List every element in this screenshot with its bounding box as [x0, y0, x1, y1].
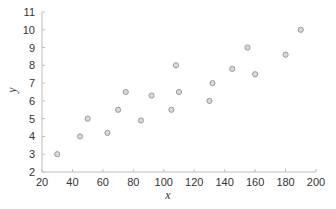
x-tick-label: 60 — [97, 176, 109, 188]
data-points — [55, 27, 304, 157]
axes: 20406080100120140160180200 234567891011 — [23, 6, 325, 188]
data-point — [173, 63, 178, 68]
data-point — [105, 130, 110, 135]
y-tick-label: 10 — [23, 24, 35, 36]
data-point — [123, 89, 128, 94]
data-point — [149, 93, 154, 98]
y-tick-label: 2 — [29, 166, 35, 178]
x-tick-label: 180 — [276, 176, 294, 188]
data-point — [230, 66, 235, 71]
data-point — [138, 118, 143, 123]
data-point — [176, 89, 181, 94]
y-tick-label: 9 — [29, 42, 35, 54]
y-tick-label: 5 — [29, 113, 35, 125]
data-point — [298, 27, 303, 32]
y-tick-label: 8 — [29, 59, 35, 71]
x-axis-title: x — [164, 188, 171, 202]
x-tick-label: 80 — [127, 176, 139, 188]
y-tick-label: 7 — [29, 77, 35, 89]
y-axis-title: y — [5, 87, 19, 94]
x-tick-label: 40 — [66, 176, 78, 188]
data-point — [116, 107, 121, 112]
x-tick-label: 120 — [185, 176, 203, 188]
x-tick-label: 100 — [155, 176, 173, 188]
y-tick-label: 11 — [24, 6, 35, 18]
x-tick-label: 200 — [307, 176, 325, 188]
data-point — [210, 81, 215, 86]
scatter-chart: 20406080100120140160180200 234567891011 … — [0, 0, 336, 209]
y-tick-label: 3 — [29, 148, 35, 160]
x-tick-label: 160 — [246, 176, 264, 188]
x-tick-label: 140 — [215, 176, 233, 188]
x-tick-label: 20 — [36, 176, 48, 188]
data-point — [207, 98, 212, 103]
data-point — [245, 45, 250, 50]
data-point — [253, 72, 258, 77]
y-tick-label: 6 — [29, 95, 35, 107]
data-point — [55, 152, 60, 157]
data-point — [77, 134, 82, 139]
data-point — [169, 107, 174, 112]
data-point — [283, 52, 288, 57]
data-point — [85, 116, 90, 121]
y-tick-label: 4 — [29, 130, 35, 142]
